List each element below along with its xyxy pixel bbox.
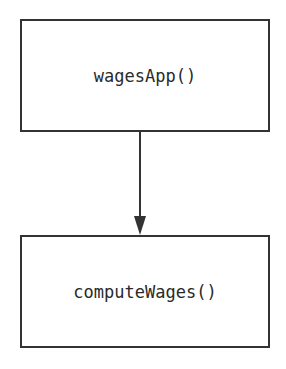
arrowhead-down-icon (134, 216, 146, 235)
node-label-wages-app: wagesApp() (94, 66, 196, 86)
node-wages-app: wagesApp() (20, 19, 270, 132)
call-diagram: wagesApp() computeWages() (0, 0, 286, 369)
node-label-compute-wages: computeWages() (73, 282, 216, 302)
node-compute-wages: computeWages() (20, 235, 270, 348)
